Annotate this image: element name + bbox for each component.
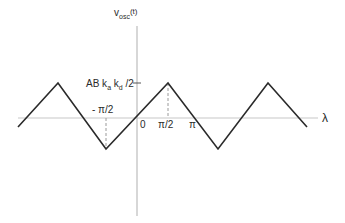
triangle-waveform	[18, 83, 307, 149]
x-axis-label: λ	[322, 111, 328, 125]
waveform-diagram: vosc(t) AB ka kd /2 - π/2 0 π/2 π λ	[0, 0, 345, 223]
tick-label-neg-half-pi: - π/2	[92, 104, 114, 115]
amplitude-label: AB ka kd /2	[86, 78, 134, 91]
tick-label-origin: 0	[140, 119, 146, 130]
y-axis-label: vosc(t)	[114, 7, 138, 20]
tick-label-half-pi: π/2	[158, 119, 174, 130]
tick-label-pi: π	[189, 119, 196, 130]
